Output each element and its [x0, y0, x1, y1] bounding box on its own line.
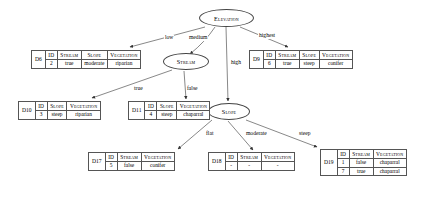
- table-row: D18 ID Stream Vegetation: [209, 153, 295, 162]
- table-d18-header-stream: Stream: [237, 153, 261, 162]
- table-d19-cell-id-1: 7: [337, 167, 349, 176]
- table-d11-cell-id: 4: [145, 110, 157, 119]
- edge-stream-to-d11: [184, 71, 186, 99]
- table-d10-header-id: ID: [35, 102, 47, 111]
- table-d19-header-id: ID: [337, 150, 349, 159]
- table-d6-cell-slope: moderate: [81, 59, 107, 68]
- edge-stream-to-d10: [92, 70, 172, 98]
- table-d19-cell-stream-0: false: [349, 158, 373, 167]
- table-d6-cell-id: 2: [45, 59, 57, 68]
- table-row: D6 ID Stream Slope Vegetation: [32, 51, 141, 60]
- table-d6[interactable]: D6 ID Stream Slope Vegetation 2 true mod…: [31, 50, 141, 69]
- node-elevation[interactable]: Elevation: [199, 9, 254, 27]
- edge-label-slope-steep: steep: [298, 131, 312, 137]
- table-d10-cell-id: 3: [35, 110, 47, 119]
- table-d18-header-vegetation: Vegetation: [261, 153, 294, 162]
- table-d10-header-slope: Slope: [47, 102, 67, 111]
- table-d9-cell-vegetation: conifer: [319, 59, 352, 68]
- table-d19-header-vegetation: Vegetation: [373, 150, 406, 159]
- table-d17-cell-id: 5: [105, 161, 117, 170]
- decision-tree-diagram: Elevation Stream Slope low medium high h…: [0, 0, 424, 198]
- table-d19-cell-vegetation-1: chaparral: [373, 167, 406, 176]
- edge-label-highest: highest: [258, 33, 276, 39]
- table-d18-header-id: ID: [225, 153, 237, 162]
- table-row: D17 ID Stream Vegetation: [89, 153, 175, 162]
- table-d9-header-stream: Stream: [275, 51, 299, 60]
- edge-label-medium: medium: [188, 35, 208, 41]
- table-d6-cell-vegetation: riparian: [107, 59, 140, 68]
- table-d17-cell-vegetation: conifer: [141, 161, 174, 170]
- table-d17-cell-stream: false: [117, 161, 141, 170]
- edge-label-slope-moderate: moderate: [245, 131, 268, 137]
- table-row: D11 ID Slope Vegetation: [129, 102, 210, 111]
- table-d11-cell-vegetation: chaparral: [177, 110, 210, 119]
- table-d6-header-stream: Stream: [57, 51, 81, 60]
- table-d11-header-slope: Slope: [157, 102, 177, 111]
- edge-label-low: low: [164, 35, 174, 41]
- table-d6-name: D6: [32, 51, 46, 69]
- table-d9[interactable]: D9 ID Stream Slope Vegetation 6 true ste…: [249, 50, 353, 69]
- edge-label-stream-false: false: [186, 86, 199, 92]
- node-slope-label: Slope: [222, 108, 236, 115]
- table-d19-cell-stream-1: true: [349, 167, 373, 176]
- table-d18-cell-stream: -: [237, 161, 261, 170]
- table-d10-header-vegetation: Vegetation: [67, 102, 100, 111]
- table-d17-name: D17: [89, 153, 106, 171]
- table-d11-name: D11: [129, 102, 145, 120]
- table-d18[interactable]: D18 ID Stream Vegetation - - -: [208, 152, 295, 171]
- edge-root-to-slope: [226, 27, 228, 101]
- table-row: 2 true moderate riparian: [32, 59, 141, 68]
- table-d19-header-stream: Stream: [349, 150, 373, 159]
- table-d9-cell-id: 6: [263, 59, 275, 68]
- table-d9-header-slope: Slope: [299, 51, 319, 60]
- table-row: 6 true steep conifer: [250, 59, 353, 68]
- node-stream[interactable]: Stream: [163, 53, 209, 70]
- table-d11-header-id: ID: [145, 102, 157, 111]
- table-d10-cell-slope: steep: [47, 110, 67, 119]
- table-d11[interactable]: D11 ID Slope Vegetation 4 steep chaparra…: [128, 101, 210, 120]
- table-d11-cell-slope: steep: [157, 110, 177, 119]
- table-d17-header-vegetation: Vegetation: [141, 153, 174, 162]
- table-d10-name: D10: [19, 102, 36, 120]
- table-row: D9 ID Stream Slope Vegetation: [250, 51, 353, 60]
- table-d6-cell-stream: true: [57, 59, 81, 68]
- table-d19-cell-id-0: 1: [337, 158, 349, 167]
- node-stream-label: Stream: [177, 58, 196, 65]
- table-d9-cell-slope: steep: [299, 59, 319, 68]
- table-d10-cell-vegetation: riparian: [67, 110, 100, 119]
- table-d17[interactable]: D17 ID Stream Vegetation 5 false conifer: [88, 152, 175, 171]
- table-d19[interactable]: D19 ID Stream Vegetation 1 false chaparr…: [320, 149, 407, 176]
- table-d9-header-vegetation: Vegetation: [319, 51, 352, 60]
- table-d18-name: D18: [209, 153, 226, 171]
- table-d10[interactable]: D10 ID Slope Vegetation 3 steep riparian: [18, 101, 101, 120]
- table-d9-header-id: ID: [263, 51, 275, 60]
- table-d18-cell-id: -: [225, 161, 237, 170]
- node-slope[interactable]: Slope: [208, 103, 250, 120]
- table-d19-cell-vegetation-0: chaparral: [373, 158, 406, 167]
- table-d17-header-id: ID: [105, 153, 117, 162]
- table-d6-header-vegetation: Vegetation: [107, 51, 140, 60]
- table-d6-header-slope: Slope: [81, 51, 107, 60]
- table-d19-name: D19: [321, 150, 338, 176]
- table-d18-cell-vegetation: -: [261, 161, 294, 170]
- edge-label-stream-true: true: [133, 86, 144, 92]
- table-row: D19 ID Stream Vegetation: [321, 150, 407, 159]
- table-d17-header-stream: Stream: [117, 153, 141, 162]
- table-d11-header-vegetation: Vegetation: [177, 102, 210, 111]
- node-elevation-label: Elevation: [214, 15, 239, 22]
- table-d6-header-id: ID: [45, 51, 57, 60]
- table-d9-cell-stream: true: [275, 59, 299, 68]
- edge-label-high: high: [230, 60, 242, 66]
- edge-label-slope-flat: flat: [205, 131, 214, 137]
- table-row: D10 ID Slope Vegetation: [19, 102, 101, 111]
- table-d9-name: D9: [250, 51, 264, 69]
